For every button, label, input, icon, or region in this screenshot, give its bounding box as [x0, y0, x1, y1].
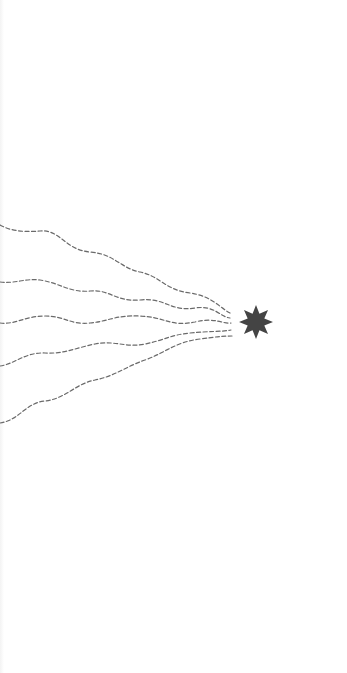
- wave-line-5: [0, 336, 232, 423]
- wave-lines-group: [0, 225, 232, 423]
- star-icon: [239, 305, 273, 339]
- wave-line-2: [0, 280, 230, 318]
- wave-line-1: [0, 225, 230, 313]
- wave-line-4: [0, 330, 231, 366]
- wave-diagram: [0, 0, 347, 673]
- wave-line-3: [0, 316, 231, 324]
